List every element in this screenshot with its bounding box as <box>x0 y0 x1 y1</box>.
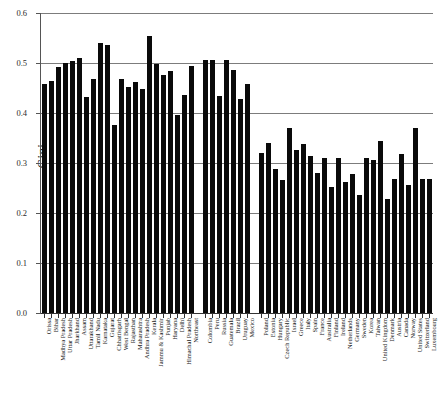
bar <box>119 79 124 313</box>
bar <box>56 67 61 313</box>
bar <box>280 180 285 313</box>
bar <box>273 169 278 313</box>
bar <box>301 144 306 313</box>
bar <box>308 156 313 314</box>
bar <box>406 185 411 313</box>
bar <box>371 160 376 313</box>
bar <box>357 195 362 314</box>
bar <box>105 45 110 313</box>
bar <box>49 81 54 314</box>
bar <box>294 150 299 314</box>
bar <box>350 174 355 313</box>
plot-area: 0.00.10.20.30.40.50.6 <box>40 13 433 314</box>
bars-layer <box>41 13 433 313</box>
bar <box>385 199 390 314</box>
bar <box>168 71 173 313</box>
bar <box>364 158 369 314</box>
bar <box>343 182 348 314</box>
bar <box>413 128 418 314</box>
bar <box>245 84 250 314</box>
bar <box>266 143 271 313</box>
bar <box>147 36 152 313</box>
bar <box>70 61 75 313</box>
y-tick-label: 0.5 <box>0 59 27 68</box>
bar <box>63 63 68 313</box>
bar <box>182 95 187 314</box>
bar <box>42 84 47 313</box>
y-tick-label: 0.3 <box>0 159 27 168</box>
gini-bar-chart: Gini 0.00.10.20.30.40.50.6 OrissaBiharMa… <box>0 0 441 402</box>
bar <box>427 179 432 313</box>
bar <box>126 87 131 313</box>
y-tick-label: 0.4 <box>0 109 27 118</box>
x-axis-label: Mexico <box>249 318 255 338</box>
y-tick-label: 0.1 <box>0 259 27 268</box>
x-axis-label: Luxembourg <box>431 318 437 351</box>
bar <box>399 154 404 313</box>
bar <box>98 43 103 314</box>
bar <box>189 66 194 313</box>
bar <box>203 60 208 314</box>
bar <box>329 187 334 313</box>
bar <box>91 79 96 313</box>
bar <box>112 125 117 314</box>
bar <box>217 96 222 314</box>
bar <box>210 60 215 313</box>
bar <box>140 89 145 314</box>
x-axis-labels: OrissaBiharMadhya PradeshUttar PradeshJh… <box>40 318 432 402</box>
bar <box>315 173 320 314</box>
bar <box>154 64 159 314</box>
bar <box>77 58 82 314</box>
bar <box>161 75 166 314</box>
y-tick-label: 0.2 <box>0 209 27 218</box>
bar <box>133 82 138 313</box>
bar <box>84 97 89 313</box>
y-tick-label: 0.6 <box>0 9 27 18</box>
bar <box>231 70 236 314</box>
bar <box>238 99 243 313</box>
bar <box>175 115 180 314</box>
x-axis-label: Northeast <box>193 318 199 343</box>
bar <box>392 179 397 314</box>
bar <box>336 158 341 314</box>
bar <box>224 60 229 313</box>
bar <box>287 128 292 313</box>
bar <box>322 158 327 314</box>
bar <box>420 179 425 313</box>
bar <box>378 141 383 314</box>
bar <box>259 153 264 313</box>
y-tick-label: 0.0 <box>0 309 27 318</box>
